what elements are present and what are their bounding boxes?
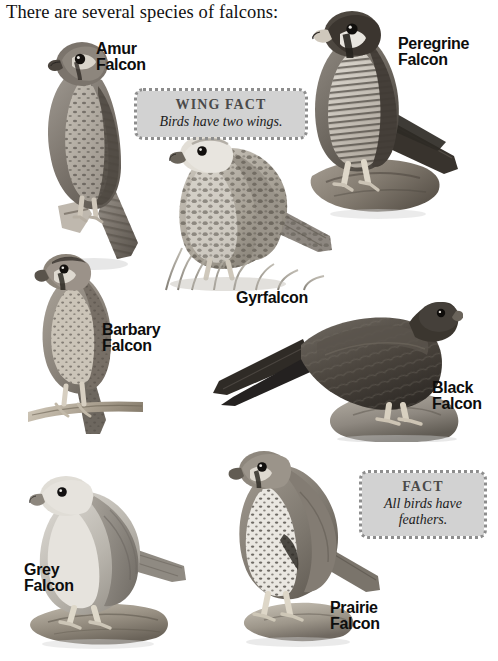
species-label-grey-falcon: Grey Falcon — [24, 562, 74, 595]
bird-photo-gyrfalcon — [158, 132, 338, 292]
species-label-barbary-falcon: Barbary Falcon — [102, 322, 160, 355]
species-label-amur-falcon: Amur Falcon — [96, 41, 146, 74]
species-label-prairie-falcon: Prairie Falcon — [330, 600, 380, 633]
species-label-black-falcon: Black Falcon — [432, 380, 482, 413]
fact-body-fact: All birds have feathers. — [375, 496, 471, 529]
species-label-peregrine-falcon: Peregrine Falcon — [398, 36, 469, 69]
fact-title-wing-fact: Wing Fact — [150, 96, 292, 114]
species-label-gyrfalcon: Gyrfalcon — [236, 290, 308, 306]
fact-body-wing-fact: Birds have two wings. — [150, 114, 292, 131]
bird-photo-grey-falcon — [12, 470, 187, 650]
fact-box-fact: Fact All birds have feathers. — [363, 474, 483, 535]
fact-title-fact: Fact — [375, 478, 471, 496]
bird-photo-black-falcon — [213, 297, 463, 442]
page-title: There are several species of falcons: — [6, 2, 278, 23]
fact-box-wing-fact: Wing Fact Birds have two wings. — [138, 92, 304, 136]
infographic-page: There are several species of falcons: — [0, 0, 498, 661]
